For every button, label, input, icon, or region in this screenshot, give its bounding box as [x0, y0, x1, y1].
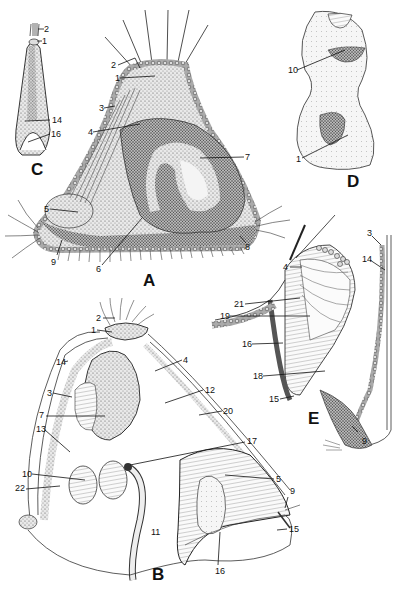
label-e-14: 14: [362, 255, 372, 264]
label-b-5: 5: [276, 475, 281, 484]
label-a-2: 2: [111, 61, 116, 70]
panel-b-drawing: [19, 298, 300, 580]
label-e-18: 18: [253, 372, 263, 381]
panel-label-d: D: [347, 173, 359, 190]
label-e-3: 3: [367, 229, 372, 238]
panel-label-b: B: [152, 566, 164, 583]
label-a-1: 1: [115, 74, 120, 83]
label-a-7: 7: [245, 153, 250, 162]
label-a-9: 9: [51, 258, 56, 267]
label-b-14: 14: [56, 358, 66, 367]
label-a-4: 4: [88, 128, 93, 137]
label-e-19: 19: [220, 312, 230, 321]
label-b-16: 16: [215, 567, 225, 576]
label-b-17: 17: [247, 437, 257, 446]
label-d-10: 10: [288, 66, 298, 75]
label-e-15: 15: [269, 395, 279, 404]
label-a-5: 5: [44, 205, 49, 214]
label-b-22: 22: [15, 484, 25, 493]
label-c-16: 16: [51, 130, 61, 139]
figure-plate: [0, 0, 402, 590]
label-a-3: 3: [99, 104, 104, 113]
label-b-10: 10: [22, 470, 32, 479]
label-e-4: 4: [283, 263, 288, 272]
label-b-12: 12: [205, 386, 215, 395]
panel-label-e: E: [308, 410, 319, 427]
panel-d-drawing: [297, 11, 374, 169]
label-b-15: 15: [289, 525, 299, 534]
label-b-7: 7: [39, 411, 44, 420]
label-c-14: 14: [52, 116, 62, 125]
label-e-9: 9: [362, 437, 367, 446]
label-b-3: 3: [47, 389, 52, 398]
label-e-21: 21: [234, 300, 244, 309]
panel-label-a: A: [143, 272, 155, 289]
label-e-16: 16: [242, 340, 252, 349]
label-b-20: 20: [223, 407, 233, 416]
label-b-1: 1: [91, 326, 96, 335]
label-b-13: 13: [36, 425, 46, 434]
label-c-2: 2: [44, 25, 49, 34]
label-b-2: 2: [96, 314, 101, 323]
label-d-1: 1: [296, 155, 301, 164]
label-a-6: 6: [96, 265, 101, 274]
label-b-9: 9: [290, 487, 295, 496]
label-c-1: 1: [42, 37, 47, 46]
label-b-11: 11: [151, 528, 160, 537]
label-b-4: 4: [183, 356, 188, 365]
label-a-8: 8: [245, 243, 250, 252]
panel-label-c: C: [31, 161, 43, 178]
